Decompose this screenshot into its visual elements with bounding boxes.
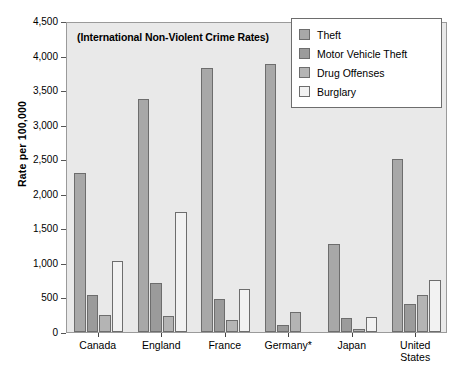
legend-item[interactable]: Motor Vehicle Theft [299, 44, 434, 63]
bar [392, 159, 404, 332]
legend-label: Motor Vehicle Theft [317, 48, 407, 60]
bar [214, 299, 226, 332]
bar [175, 212, 187, 332]
bar [265, 64, 277, 332]
bar [328, 244, 340, 332]
legend-swatch-icon [299, 67, 310, 78]
bar [404, 304, 416, 332]
y-tick-label: 500 [12, 293, 58, 303]
bar [239, 289, 251, 332]
y-tick-label: 2,500 [12, 155, 58, 165]
y-tick-label: 4,500 [12, 17, 58, 27]
y-tick-mark [61, 333, 66, 334]
bar [201, 68, 213, 332]
bar [290, 312, 302, 332]
bar [163, 316, 175, 332]
bar [226, 320, 238, 332]
y-tick-label: 1,000 [12, 259, 58, 269]
bar [99, 315, 111, 332]
bar [74, 173, 86, 332]
legend-label: Theft [317, 29, 341, 41]
legend-label: Burglary [317, 86, 356, 98]
legend-item[interactable]: Drug Offenses [299, 63, 434, 82]
bar [112, 261, 124, 332]
x-tick-label: United States [375, 339, 455, 363]
bar [341, 318, 353, 332]
legend-swatch-icon [299, 48, 310, 59]
crime-rates-bar-chart: Rate per 100,000 05001,0001,5002,0002,50… [0, 0, 466, 382]
y-tick-label: 2,000 [12, 190, 58, 200]
y-tick-label: 3,000 [12, 121, 58, 131]
bar [429, 280, 441, 332]
x-tick-mark [288, 333, 289, 337]
bar [87, 295, 99, 332]
bar [277, 325, 289, 332]
y-axis-title: Rate per 100,000 [16, 84, 28, 204]
bar [150, 283, 162, 332]
legend-swatch-icon [299, 29, 310, 40]
bar [417, 295, 429, 332]
x-tick-mark [415, 333, 416, 337]
x-tick-mark [161, 333, 162, 337]
bar [138, 99, 150, 332]
x-tick-mark [352, 333, 353, 337]
y-tick-label: 3,500 [12, 86, 58, 96]
x-tick-mark [225, 333, 226, 337]
y-tick-label: 1,500 [12, 224, 58, 234]
legend-rows: TheftMotor Vehicle TheftDrug OffensesBur… [299, 25, 434, 101]
legend-swatch-icon [299, 86, 310, 97]
x-tick-mark [98, 333, 99, 337]
legend-label: Drug Offenses [317, 67, 385, 79]
y-tick-label: 4,000 [12, 52, 58, 62]
legend-item[interactable]: Burglary [299, 82, 434, 101]
legend-item[interactable]: Theft [299, 25, 434, 44]
bar [353, 329, 365, 332]
bar [366, 317, 378, 332]
y-tick-label: 0 [12, 328, 58, 338]
legend: TheftMotor Vehicle TheftDrug OffensesBur… [291, 18, 442, 108]
